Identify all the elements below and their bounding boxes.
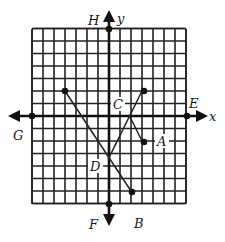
- point-A: [141, 139, 148, 146]
- y-axis-down-arrow-icon: [103, 214, 115, 226]
- y-axis-up-arrow-icon: [103, 10, 115, 22]
- label-H: H: [87, 13, 100, 28]
- point-E: [184, 113, 191, 120]
- label-C: C: [113, 97, 123, 112]
- label-D: D: [89, 159, 101, 174]
- point-H: [106, 26, 113, 33]
- point-upper-right: [141, 88, 148, 95]
- point-B: [129, 189, 136, 196]
- point-G: [29, 113, 36, 120]
- label-G: G: [13, 128, 23, 143]
- label-E: E: [188, 96, 199, 111]
- label-x: x: [209, 109, 217, 124]
- label-F: F: [88, 217, 99, 232]
- coordinate-grid-figure: H y G x E C A D F B: [0, 0, 225, 242]
- point-F: [106, 201, 113, 208]
- x-axis-left-arrow-icon: [8, 110, 20, 122]
- label-y: y: [116, 11, 125, 26]
- label-B: B: [133, 216, 144, 231]
- x-axis-right-arrow-icon: [196, 110, 208, 122]
- point-upper-left: [62, 88, 69, 95]
- label-A: A: [156, 134, 166, 149]
